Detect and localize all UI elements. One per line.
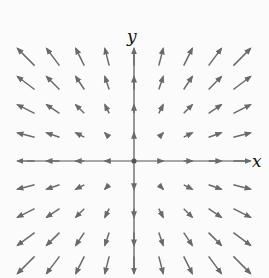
x-axis-label: x — [252, 151, 262, 171]
vector-arrow — [105, 209, 109, 218]
vector-arrow — [159, 209, 163, 218]
vector-arrow — [76, 48, 85, 65]
vector-arrow — [105, 256, 109, 273]
vector-arrow — [233, 77, 250, 90]
vector-arrow — [47, 233, 60, 246]
vector-arrow — [184, 77, 193, 90]
vector-arrow — [105, 105, 109, 114]
axes: x y — [27, 26, 262, 272]
vector-arrow — [47, 209, 60, 218]
vector-arrow — [47, 256, 60, 273]
vector-arrow — [184, 185, 193, 189]
vector-arrow — [76, 105, 85, 114]
vector-arrow — [209, 256, 222, 273]
vector-arrow — [159, 48, 163, 65]
vector-arrow — [105, 77, 109, 90]
vector-arrow — [209, 105, 222, 114]
vector-arrow — [159, 77, 163, 90]
origin-dot — [131, 158, 136, 163]
vector-arrow — [17, 256, 34, 273]
vector-arrow — [76, 256, 85, 273]
vector-field-plot: x y — [0, 0, 269, 278]
vector-arrow — [233, 185, 250, 189]
vector-arrow — [105, 185, 109, 189]
vector-arrow — [47, 48, 60, 65]
vector-arrow — [105, 133, 109, 137]
vector-arrow — [105, 233, 109, 246]
vector-arrow — [233, 48, 250, 65]
vector-arrow — [17, 233, 34, 246]
vector-arrow — [17, 185, 34, 189]
vector-arrow — [159, 105, 163, 114]
vector-arrow — [209, 185, 222, 189]
vector-arrow — [209, 209, 222, 218]
vector-arrow — [76, 209, 85, 218]
vector-arrow — [184, 48, 193, 65]
vector-arrow — [17, 105, 34, 114]
vector-arrow — [233, 233, 250, 246]
vector-arrow — [184, 256, 193, 273]
vector-arrow — [17, 77, 34, 90]
vector-arrow — [184, 133, 193, 137]
vector-arrow — [47, 105, 60, 114]
vector-arrow — [233, 256, 250, 273]
vector-arrow — [233, 133, 250, 137]
vector-arrow — [233, 209, 250, 218]
vector-arrow — [76, 77, 85, 90]
y-axis-label: y — [126, 26, 137, 46]
vector-arrow — [159, 185, 163, 189]
vector-arrow — [209, 77, 222, 90]
vector-arrow — [47, 77, 60, 90]
vector-arrow — [159, 256, 163, 273]
vector-arrow — [209, 133, 222, 137]
vector-arrow — [17, 133, 34, 137]
vector-arrow — [184, 209, 193, 218]
vector-arrow — [159, 133, 163, 137]
vector-arrow — [209, 233, 222, 246]
vector-arrow — [233, 105, 250, 114]
vector-arrow — [184, 233, 193, 246]
vector-arrow — [76, 133, 85, 137]
vector-arrow — [47, 185, 60, 189]
vector-arrow — [47, 133, 60, 137]
vector-arrow — [17, 209, 34, 218]
vector-arrow — [184, 105, 193, 114]
vector-arrow — [159, 233, 163, 246]
vector-arrow — [105, 48, 109, 65]
vector-arrow — [209, 48, 222, 65]
vector-arrow — [17, 48, 34, 65]
vector-arrow — [76, 233, 85, 246]
vector-arrow — [76, 185, 85, 189]
